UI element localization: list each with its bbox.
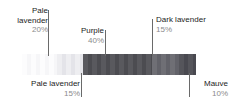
bar-segment-pale-lavender-15 bbox=[57, 54, 83, 75]
callout-purple-40: Purple 40% bbox=[62, 26, 104, 45]
callout-label-name: Dark lavender bbox=[156, 15, 228, 25]
leader-line-pale-lavender-20 bbox=[48, 10, 49, 56]
callout-mauve-10: Mauve 10% bbox=[192, 79, 228, 98]
callout-label-name-line1: Pale bbox=[6, 6, 48, 16]
callout-label-name: Pale lavender bbox=[12, 79, 80, 89]
callout-label-percent: 20% bbox=[6, 25, 48, 35]
callout-pale-lavender-20: Pale lavender 20% bbox=[6, 6, 48, 35]
bar-segment-dark-lavender-15 bbox=[152, 54, 178, 75]
leader-line-dark-lavender-15 bbox=[152, 19, 153, 56]
color-proportion-chart: Pale lavender 20% Purple 40% Dark lavend… bbox=[0, 0, 230, 108]
bar-segment-pale-lavender-20 bbox=[22, 54, 57, 75]
callout-dark-lavender-15: Dark lavender 15% bbox=[156, 15, 228, 34]
callout-label-percent: 15% bbox=[156, 25, 228, 35]
callout-label-percent: 40% bbox=[62, 36, 104, 46]
bar-segment-purple-40 bbox=[83, 54, 153, 75]
callout-pale-lavender-15: Pale lavender 15% bbox=[12, 79, 80, 98]
callout-label-percent: 10% bbox=[192, 89, 228, 99]
leader-line-mauve-10 bbox=[189, 73, 190, 97]
callout-label-name: Mauve bbox=[192, 79, 228, 89]
callout-label-name: Purple bbox=[62, 26, 104, 36]
color-proportion-bar bbox=[22, 54, 196, 75]
callout-label-name-line2: lavender bbox=[6, 16, 48, 26]
bar-segment-mauve-10 bbox=[179, 54, 196, 75]
leader-line-purple-40 bbox=[105, 30, 106, 56]
leader-line-pale-lavender-15 bbox=[81, 73, 82, 97]
callout-label-percent: 15% bbox=[12, 89, 80, 99]
